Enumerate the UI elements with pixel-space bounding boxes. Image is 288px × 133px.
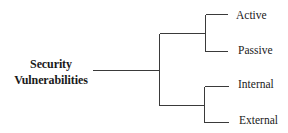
root-node-label: Security Vulnerabilities (10, 57, 92, 88)
root-label-line1: Security (10, 57, 92, 73)
leaf-active: Active (236, 9, 267, 22)
leaf-passive: Passive (238, 44, 273, 57)
leaf-internal: Internal (238, 78, 274, 91)
root-label-line2: Vulnerabilities (10, 73, 92, 89)
security-vulnerabilities-tree: Security Vulnerabilities Active Passive … (0, 0, 288, 133)
leaf-external: External (239, 114, 278, 127)
